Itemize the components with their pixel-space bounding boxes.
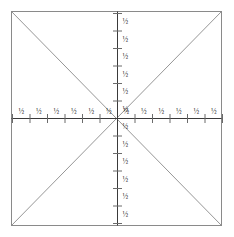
tick-label-y-neg-2: ½ [123, 141, 129, 149]
tick-label-x-neg-4: ½ [53, 108, 59, 116]
tick-label-x-neg-2: ½ [88, 108, 94, 116]
tick-label-y-pos-4: ½ [123, 54, 129, 62]
tick-label-x-neg-6: ½ [18, 108, 24, 116]
tick-label-y-neg-4: ½ [123, 176, 129, 184]
tick-label-y-neg-5: ½ [123, 194, 129, 202]
figure-canvas: ½½½½½½½½½½½½½½½½½½½½½½½½ [0, 0, 234, 237]
tick-label-x-neg-1: ½ [106, 108, 112, 116]
tick-label-y-neg-1: ½ [123, 124, 129, 132]
tick-label-x-pos-5: ½ [193, 108, 199, 116]
diagram-svg [0, 0, 234, 237]
tick-label-x-pos-4: ½ [176, 108, 182, 116]
tick-label-x-neg-5: ½ [36, 108, 42, 116]
tick-label-y-pos-5: ½ [123, 36, 129, 44]
tick-label-y-pos-6: ½ [123, 19, 129, 27]
tick-label-y-pos-1: ½ [123, 106, 129, 114]
tick-label-y-neg-3: ½ [123, 159, 129, 167]
tick-label-x-pos-3: ½ [158, 108, 164, 116]
tick-label-x-pos-6: ½ [211, 108, 217, 116]
tick-label-y-neg-6: ½ [123, 211, 129, 219]
tick-label-y-pos-2: ½ [123, 89, 129, 97]
tick-label-x-pos-2: ½ [141, 108, 147, 116]
tick-label-x-neg-3: ½ [71, 108, 77, 116]
tick-label-y-pos-3: ½ [123, 71, 129, 79]
